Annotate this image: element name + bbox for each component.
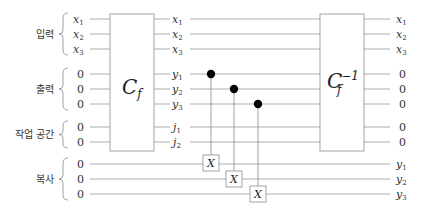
quantum-circuit-diagram: 입력 출력 작업 공간 복사 x1 x2 x3 0 0 0 0 0 0 0 0 … xyxy=(0,0,431,211)
input-label-zero: 0 xyxy=(77,136,84,149)
input-label-zero: 0 xyxy=(77,98,84,111)
right-output-labels: x1 x2 x3 0 0 0 0 0 y1 y2 y3 xyxy=(393,8,431,208)
brace-copy xyxy=(59,158,68,200)
mid-labels: x1 x2 x3 y1 y2 y3 j1 j2 xyxy=(170,10,190,150)
brace-input xyxy=(59,13,68,55)
cnot-gates: X X X xyxy=(203,70,266,202)
cf-inverse-gate: C−1f xyxy=(320,14,364,151)
input-label-zero: 0 xyxy=(77,68,84,81)
cnot-3-target-label: X xyxy=(253,188,263,201)
group-label-copy: 복사 xyxy=(36,174,54,185)
cf-gate: Cf xyxy=(110,14,154,151)
group-braces xyxy=(59,13,68,200)
input-label-zero: 0 xyxy=(77,121,84,134)
output-label-zero: 0 xyxy=(399,121,406,134)
output-label-zero: 0 xyxy=(399,68,406,81)
group-label-workspace: 작업 공간 xyxy=(15,128,54,140)
cnot-1-target-label: X xyxy=(206,157,216,170)
brace-output xyxy=(59,68,68,110)
input-label-zero: 0 xyxy=(77,158,84,171)
output-label-zero: 0 xyxy=(399,98,406,111)
cnot-2-target-label: X xyxy=(229,173,239,186)
left-input-labels: x1 x2 x3 0 0 0 0 0 0 0 0 xyxy=(70,10,90,201)
control-dot-icon xyxy=(254,100,262,108)
input-label-zero: 0 xyxy=(77,83,84,96)
brace-workspace xyxy=(59,121,68,148)
output-label-zero: 0 xyxy=(399,83,406,96)
input-label-zero: 0 xyxy=(77,173,84,186)
output-label-zero: 0 xyxy=(399,136,406,149)
cnot-gate-1: X xyxy=(203,70,219,171)
group-labels: 입력 출력 작업 공간 복사 xyxy=(15,28,54,185)
group-label-input: 입력 xyxy=(36,28,54,40)
group-label-output: 출력 xyxy=(36,84,54,95)
cnot-gate-2: X xyxy=(226,85,242,187)
control-dot-icon xyxy=(230,85,238,93)
control-dot-icon xyxy=(207,70,215,78)
input-label-zero: 0 xyxy=(77,188,84,201)
cnot-gate-3: X xyxy=(250,100,266,202)
